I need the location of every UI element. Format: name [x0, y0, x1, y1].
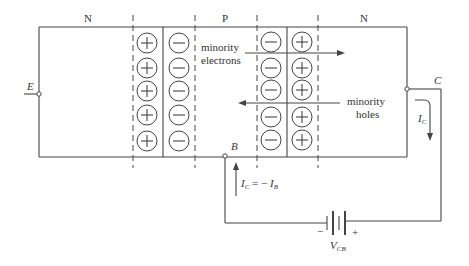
battery-label: VCB	[330, 239, 346, 253]
minority-holes-label: minority holes	[347, 95, 385, 120]
collector-current-label: IC	[417, 112, 427, 126]
svg-text:C: C	[434, 74, 442, 86]
minority-holes-arrow	[238, 100, 340, 106]
collector-current-arrow: IC	[415, 100, 433, 141]
svg-text:B: B	[231, 140, 238, 152]
positive-ion-icon	[137, 81, 157, 101]
base-current-arrow: IC = − IB	[233, 162, 279, 196]
positive-ion-icon	[137, 58, 157, 78]
positive-ion-icon	[137, 33, 157, 53]
region-label-n-right: N	[360, 12, 368, 24]
minority-electrons-label: minority electrons	[201, 41, 241, 66]
svg-text:minority: minority	[201, 41, 239, 53]
positive-ion-icon	[292, 130, 312, 150]
positive-ion-icon	[137, 105, 157, 125]
positive-ion-icon	[292, 80, 312, 100]
negative-ion-icon	[261, 107, 281, 127]
negative-ion-icon	[261, 80, 281, 100]
depletion-boundaries	[133, 15, 318, 168]
svg-text:E: E	[26, 80, 34, 92]
minority-electrons-arrow	[245, 50, 345, 56]
svg-text:holes: holes	[356, 108, 379, 120]
negative-ion-icon	[261, 32, 281, 52]
negative-ion-icon	[261, 58, 281, 78]
positive-ion-icon	[292, 107, 312, 127]
positive-ion-icon	[292, 32, 312, 52]
negative-ion-icon	[169, 105, 189, 125]
negative-ion-icon	[169, 81, 189, 101]
svg-text:electrons: electrons	[201, 54, 241, 66]
region-label-p: P	[222, 12, 228, 24]
current-relation-label: IC = − IB	[240, 177, 279, 191]
battery-negative-sign: −	[317, 225, 323, 237]
battery-positive-sign: +	[352, 226, 358, 238]
negative-ion-icon	[169, 33, 189, 53]
positive-ion-icon	[137, 131, 157, 151]
negative-ion-icon	[169, 58, 189, 78]
svg-text:minority: minority	[347, 95, 385, 107]
battery-icon: − + VCB	[317, 211, 358, 253]
negative-ion-icon	[169, 131, 189, 151]
positive-ion-icon	[292, 58, 312, 78]
region-label-n-left: N	[84, 12, 92, 24]
pnp-junction-diagram: N P N	[0, 0, 469, 266]
base-circuit: B	[223, 140, 327, 223]
negative-ion-icon	[261, 130, 281, 150]
